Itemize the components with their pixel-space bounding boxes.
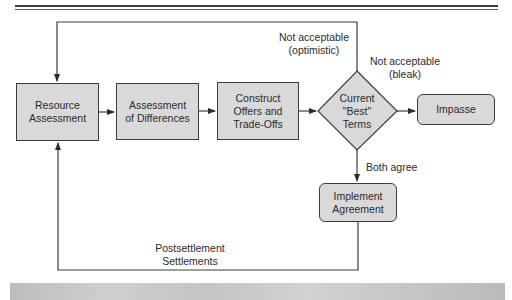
bottom-gray-band xyxy=(10,283,505,300)
node-construct-offers: Construct Offers and Trade-Offs xyxy=(217,82,299,140)
label-postsettlement: Postsettlement Settlements xyxy=(150,242,230,268)
node-implement-agreement: Implement Agreement xyxy=(319,183,397,222)
node-assessment-of-differences: Assessment of Differences xyxy=(116,83,199,140)
label-not-acceptable-optimistic: Not acceptable (optimistic) xyxy=(274,31,354,57)
node-impasse: Impasse xyxy=(417,94,495,125)
label-both-agree: Both agree xyxy=(366,161,417,174)
node-current-best-terms: Current "Best" Terms xyxy=(327,92,387,131)
connector-lines xyxy=(0,0,512,300)
node-resource-assessment: Resource Assessment xyxy=(16,83,99,141)
label-not-acceptable-bleak: Not acceptable (bleak) xyxy=(365,55,445,81)
